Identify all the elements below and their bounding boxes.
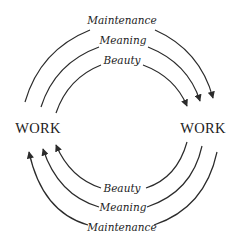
arrow-icon <box>25 30 90 102</box>
top-arc-beauty <box>56 65 187 113</box>
top-label-meaning: Meaning <box>99 34 147 46</box>
arrow-icon <box>155 30 213 98</box>
node-work-right: WORK <box>180 120 226 136</box>
top-label-maintenance: Maintenance <box>86 14 156 26</box>
bottom-arc-meaning <box>43 146 202 207</box>
work-cycle-diagram: Maintenance Meaning Beauty Beauty Meanin… <box>0 0 242 251</box>
top-label-beauty: Beauty <box>102 54 141 66</box>
node-work-left: WORK <box>15 120 61 136</box>
bottom-label-beauty: Beauty <box>102 182 141 194</box>
bottom-label-maintenance: Maintenance <box>86 221 156 233</box>
bottom-label-meaning: Meaning <box>99 201 147 213</box>
